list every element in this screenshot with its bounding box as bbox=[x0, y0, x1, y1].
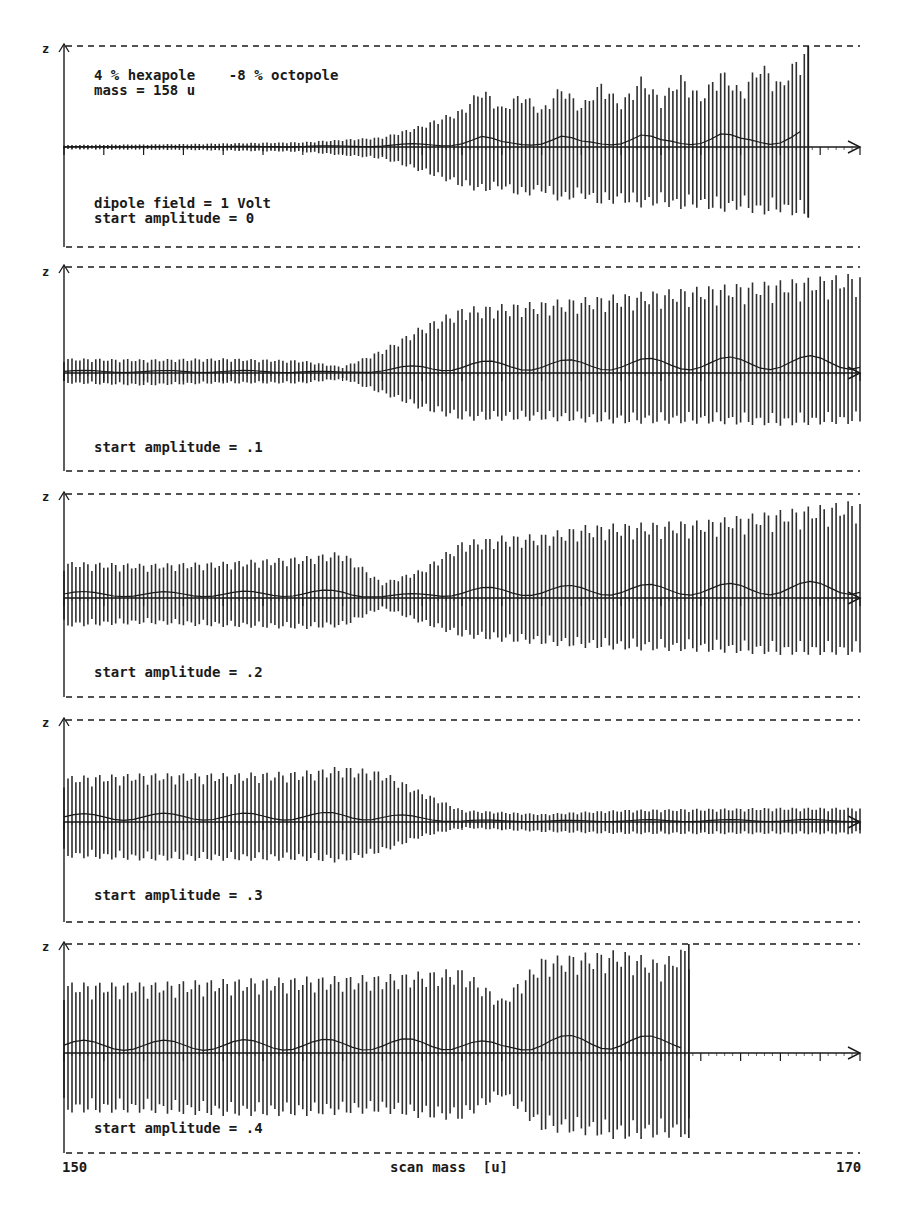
panel-4-z-axis-label: z bbox=[42, 716, 49, 730]
secular-motion-trace bbox=[64, 1036, 681, 1051]
panel-3-label-start-amplitude: start amplitude = .2 bbox=[94, 665, 263, 680]
panel-1-label-mass: mass = 158 u bbox=[94, 83, 195, 98]
plot-canvas bbox=[0, 0, 907, 1218]
panel-4-label-start-amplitude: start amplitude = .3 bbox=[94, 888, 263, 903]
oscillation-figure: 4 % hexapole -8 % octopole mass = 158 u … bbox=[0, 0, 907, 1218]
panel-1-label-start-amplitude: start amplitude = 0 bbox=[94, 211, 254, 226]
panel-2-z-axis-label: z bbox=[42, 265, 49, 279]
oscillation-trace bbox=[64, 767, 860, 863]
secular-motion-trace bbox=[64, 132, 800, 147]
panel-1-label-dipole: dipole field = 1 Volt bbox=[94, 196, 271, 211]
oscillation-trace bbox=[64, 274, 860, 426]
panel-1-label-multipole: 4 % hexapole -8 % octopole bbox=[94, 68, 338, 83]
x-axis-title: scan mass [u] bbox=[390, 1160, 508, 1175]
panel-5-z-axis-label: z bbox=[42, 940, 49, 954]
oscillation-trace bbox=[64, 501, 860, 655]
x-axis-min-label: 150 bbox=[62, 1160, 87, 1175]
x-axis-max-label: 170 bbox=[836, 1160, 861, 1175]
oscillation-trace bbox=[64, 950, 689, 1139]
panel-1-z-axis-label: z bbox=[42, 42, 49, 56]
panel-3-z-axis-label: z bbox=[42, 490, 49, 504]
panel-5-label-start-amplitude: start amplitude = .4 bbox=[94, 1121, 263, 1136]
panel-2-label-start-amplitude: start amplitude = .1 bbox=[94, 440, 263, 455]
